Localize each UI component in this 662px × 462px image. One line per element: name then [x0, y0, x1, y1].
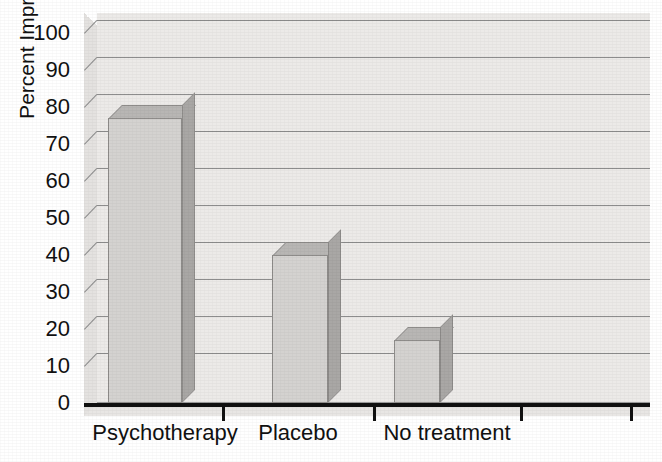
- bar-side-face: [328, 229, 341, 403]
- x-axis-tick: [222, 407, 225, 421]
- y-axis-tick-label: 20: [24, 318, 70, 340]
- y-axis-tick-label: 10: [24, 355, 70, 377]
- y-axis-tick-label: 30: [24, 281, 70, 303]
- bar-side-face: [440, 314, 453, 403]
- bar-no-treatment: [394, 0, 453, 403]
- bar-side-face: [182, 92, 195, 403]
- plot-area: [0, 0, 662, 462]
- bar-front-face: [394, 340, 440, 403]
- x-axis-tick: [520, 407, 523, 421]
- x-axis-label-no-treatment: No treatment: [337, 420, 557, 446]
- bar-placebo: [272, 0, 341, 403]
- y-axis-title: Percent Improved: [10, 0, 44, 246]
- bar-front-face: [108, 118, 182, 403]
- x-axis-tick: [373, 407, 376, 421]
- y-axis-tick-label: 40: [24, 244, 70, 266]
- plot-wall-bevel: [84, 13, 97, 26]
- x-axis-line: [84, 403, 650, 407]
- bar-front-face: [272, 255, 328, 403]
- bar-chart: 0102030405060708090100 Percent Improved …: [0, 0, 662, 462]
- x-axis-tick: [630, 407, 633, 421]
- y-axis-tick-label: 0: [24, 392, 70, 414]
- bar-psychotherapy: [108, 0, 195, 403]
